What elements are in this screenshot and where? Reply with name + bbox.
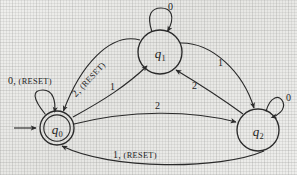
edge-label-q1-to-q2: 1: [218, 58, 223, 68]
edge-q2-to-q1: [176, 70, 243, 114]
fsm-diagram-figure: q0 q1 q2 0, (RESET) 0 0 2, (RESET) 1 1 2…: [0, 0, 297, 175]
edge-q0-to-q2: [74, 113, 236, 124]
edge-label-q2-to-q1: 2: [192, 81, 197, 91]
edge-label-q0-to-q2: 2: [155, 101, 160, 111]
state-label-q0: q0: [52, 123, 63, 136]
edge-q0-self-loop: [35, 90, 55, 115]
edge-label-q2-self-loop: 0: [286, 93, 291, 103]
edge-label-q0-self-loop: 0, (RESET): [8, 76, 52, 86]
edge-q1-to-q2: [180, 43, 254, 108]
state-label-q1: q1: [155, 47, 166, 60]
edge-q2-self-loop: [266, 97, 284, 117]
edge-label-q2-to-q0: 1, (RESET): [113, 150, 157, 160]
fsm-diagram-canvas: [0, 0, 297, 175]
edge-label-q1-self-loop: 0: [168, 2, 173, 12]
edge-q2-to-q0: [62, 146, 264, 165]
edge-label-q0-to-q1: 1: [110, 82, 115, 92]
state-label-q2: q2: [253, 125, 264, 138]
